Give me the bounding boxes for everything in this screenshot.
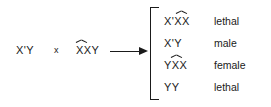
offspring-sequence: X'Y [164, 37, 182, 49]
offspring-genotype: X'Y [164, 37, 214, 49]
offspring-genotype: YXX [164, 59, 214, 71]
offspring-phenotype: lethal [214, 81, 239, 93]
genetic-cross-diagram: X'Y x XXY X'XX lethal [0, 0, 271, 107]
offspring-row: X'XX lethal [164, 10, 271, 32]
parent-right-sequence: XXY [76, 44, 99, 56]
cross-symbol: x [54, 45, 59, 55]
offspring-genotype-text: YY [164, 81, 179, 93]
offspring-row: YY lethal [164, 76, 271, 98]
offspring-phenotype: lethal [214, 15, 239, 27]
offspring-row: X'Y male [164, 32, 271, 54]
offspring-phenotype: male [214, 37, 237, 49]
arrow-shaft [110, 51, 142, 52]
offspring-phenotype: female [214, 59, 246, 71]
offspring-sequence: YY [164, 81, 179, 93]
arrow-right-icon [110, 45, 150, 57]
offspring-row: YXX female [164, 54, 271, 76]
offspring-genotype: YY [164, 81, 214, 93]
offspring-genotype: X'XX [164, 15, 214, 27]
parent-genotype-right: XXY [76, 44, 99, 56]
parent-right-text: XXY [76, 44, 99, 56]
offspring-sequence: YXX [164, 59, 187, 71]
parent-genotype-left: X'Y [16, 44, 34, 56]
offspring-list: X'XX lethal X'Y male YXX [164, 7, 271, 100]
parent-left-sequence: X'Y [16, 44, 34, 56]
offspring-sequence: X'XX [164, 15, 190, 27]
offspring-genotype-text: YXX [164, 59, 187, 71]
left-bracket [150, 7, 159, 100]
offspring-genotype-text: X'XX [164, 15, 190, 27]
arrow-head [139, 47, 148, 55]
offspring-results: X'XX lethal X'Y male YXX [150, 7, 271, 100]
offspring-genotype-text: X'Y [164, 37, 182, 49]
